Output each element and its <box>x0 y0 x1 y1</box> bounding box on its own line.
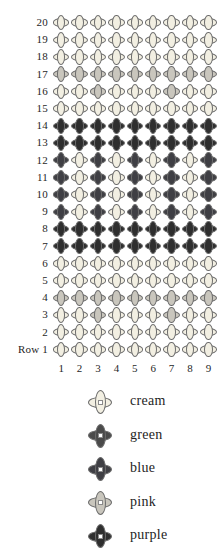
bead-petal-vertical <box>149 135 157 151</box>
bead-cell <box>162 83 180 100</box>
legend-label: purple <box>130 526 168 544</box>
bead-cell <box>144 341 162 358</box>
bead-petal-vertical <box>167 324 175 340</box>
bead-petal-vertical <box>57 221 65 237</box>
bead-cell <box>181 341 199 358</box>
bead-petal-vertical <box>57 273 65 289</box>
bead-petal-vertical <box>167 152 175 168</box>
bead-petal-vertical <box>204 273 212 289</box>
bead-petal-vertical <box>149 84 157 100</box>
bead-cell <box>107 324 125 341</box>
bead-cell <box>89 220 107 237</box>
bead-petal-vertical <box>75 118 83 134</box>
bead-cell <box>126 14 144 31</box>
bead-cell <box>70 289 88 306</box>
bead-petal-vertical <box>75 49 83 65</box>
bead-cell <box>162 169 180 186</box>
bead-petal-vertical <box>149 32 157 48</box>
bead-row <box>52 255 218 272</box>
bead-petal-vertical <box>94 324 102 340</box>
bead-petal-vertical <box>167 84 175 100</box>
column-label: 8 <box>181 362 199 374</box>
row-label: 5 <box>42 275 48 286</box>
bead-cell <box>162 152 180 169</box>
bead-row <box>52 117 218 134</box>
bead-cell <box>126 289 144 306</box>
bead-cell <box>52 186 70 203</box>
bead-cell <box>144 48 162 65</box>
bead-cell <box>181 272 199 289</box>
bead-petal-vertical <box>149 238 157 254</box>
bead-petal-vertical <box>204 324 212 340</box>
bead-petal-vertical <box>204 32 212 48</box>
bead-petal-vertical <box>186 118 194 134</box>
bead-petal-vertical <box>57 118 65 134</box>
bead-petal-vertical <box>186 221 194 237</box>
row-label: 8 <box>42 223 48 234</box>
bead-cell <box>52 238 70 255</box>
bead-cell <box>70 324 88 341</box>
bead-cell <box>126 272 144 289</box>
bead-petal-vertical <box>57 307 65 323</box>
bead-cell <box>89 31 107 48</box>
bead-cell <box>199 186 217 203</box>
bead-petal-vertical <box>131 32 139 48</box>
bead-cell <box>126 186 144 203</box>
bead-petal-vertical <box>112 118 120 134</box>
bead-cell <box>52 272 70 289</box>
bead-petal-vertical <box>149 307 157 323</box>
bead-petal-vertical <box>204 342 212 358</box>
bead-cell <box>89 48 107 65</box>
bead-cell <box>199 272 217 289</box>
bead-cell <box>107 341 125 358</box>
bead-petal-vertical <box>186 49 194 65</box>
bead-cell <box>162 220 180 237</box>
bead-cell <box>162 186 180 203</box>
bead-cell <box>181 117 199 134</box>
bead-cell <box>89 100 107 117</box>
row-label: 3 <box>42 309 48 320</box>
bead-cell <box>144 186 162 203</box>
bead-cell <box>126 203 144 220</box>
bead-petal-vertical <box>186 170 194 186</box>
bead-cell <box>162 66 180 83</box>
bead-cell <box>162 100 180 117</box>
bead-petal-vertical <box>112 324 120 340</box>
bead-cell <box>52 203 70 220</box>
bead-petal-vertical <box>131 118 139 134</box>
bead-petal-vertical <box>131 324 139 340</box>
bead-cell <box>144 289 162 306</box>
bead-cell <box>162 14 180 31</box>
bead-petal-vertical <box>131 152 139 168</box>
bead-cell <box>199 117 217 134</box>
bead-row <box>52 272 218 289</box>
bead-petal-vertical <box>94 221 102 237</box>
bead-petal-vertical <box>112 135 120 151</box>
bead-petal-vertical <box>204 170 212 186</box>
bead-cell <box>144 14 162 31</box>
bead-cell <box>126 117 144 134</box>
bead-petal-vertical <box>204 101 212 117</box>
bead-cell <box>181 203 199 220</box>
column-label: 1 <box>52 362 70 374</box>
bead-petal-vertical <box>131 135 139 151</box>
bead-petal-vertical <box>112 84 120 100</box>
pattern-grid-area: 201918171615141312111098765432Row 1 1234… <box>0 0 222 378</box>
bead-cell <box>107 66 125 83</box>
bead-cell <box>162 289 180 306</box>
bead-petal-vertical <box>75 15 83 31</box>
bead-petal-vertical <box>167 32 175 48</box>
bead-petal-vertical <box>57 342 65 358</box>
bead-cell <box>144 272 162 289</box>
bead-petal-vertical <box>112 238 120 254</box>
bead-cell <box>144 306 162 323</box>
bead-cell <box>89 117 107 134</box>
bead-petal-vertical <box>94 307 102 323</box>
bead-petal-vertical <box>57 84 65 100</box>
bead-petal-vertical <box>57 187 65 203</box>
bead-petal-vertical <box>94 170 102 186</box>
bead-petal-vertical <box>75 221 83 237</box>
bead-cell <box>52 48 70 65</box>
bead-cell <box>162 341 180 358</box>
bead-petal-vertical <box>131 342 139 358</box>
